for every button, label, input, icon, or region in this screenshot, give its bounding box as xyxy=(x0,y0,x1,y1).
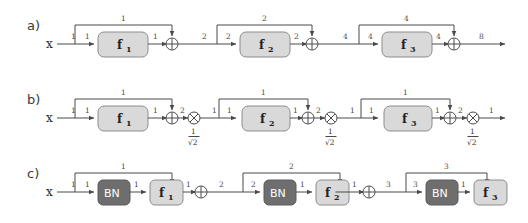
row-a-block-f1 xyxy=(98,32,148,57)
row-a-block-f3-sub: 3 xyxy=(410,44,416,54)
row-a-block-f3-name: f xyxy=(401,38,407,52)
row-a-block-f1-name: f xyxy=(117,38,123,52)
row-b-label-block-out-2: 1 xyxy=(293,106,298,115)
row-b-label: b) xyxy=(27,92,40,107)
row-b-block-f3-sub: 3 xyxy=(411,118,417,128)
row-c-label-skip-1: 1 xyxy=(121,162,126,171)
row-b-label-branch-1: 1 xyxy=(85,106,90,115)
row-b-block-f2-sub: 2 xyxy=(269,118,275,128)
row-c-label-branch-1: 1 xyxy=(85,180,90,189)
residual-network-diagram: a) x 1 1 1 f 1 1 2 2 2 f 2 2 4 4 4 xyxy=(0,0,528,223)
row-b-block-f1 xyxy=(98,106,148,131)
row-c-label-sum-out-2: 3 xyxy=(386,180,391,189)
row-b-scale-2-denominator: √2 xyxy=(325,138,335,147)
row-a-label-branch-1: 1 xyxy=(85,32,90,41)
row-c-label-branch-3: 3 xyxy=(413,180,418,189)
row-c-block-f1 xyxy=(150,180,183,205)
row-b-scale-3-denominator: √2 xyxy=(467,138,477,147)
row-c-label-bn-out-2: 1 xyxy=(300,180,305,189)
row-c-label-block-out-2: 1 xyxy=(352,180,357,189)
row-b-scale-2-numerator: 1 xyxy=(328,127,333,136)
row-a-label-skip-3: 4 xyxy=(404,14,409,23)
row-a-label-sum-out-3: 8 xyxy=(479,32,484,41)
row-c-label-block-out-1: 1 xyxy=(186,180,191,189)
row-a-label-branch-2: 2 xyxy=(226,32,231,41)
row-b-label-skip-1: 1 xyxy=(121,88,126,97)
row-b-label-sum-out-3: 2 xyxy=(458,106,463,115)
row-c-label-sum-out-1: 2 xyxy=(219,180,224,189)
row-b-label-block-out-3: 1 xyxy=(435,106,440,115)
row-b-scale-1-numerator: 1 xyxy=(191,127,196,136)
row-a-label-branch-3: 4 xyxy=(368,32,373,41)
row-b-scale-1-denominator: √2 xyxy=(188,138,198,147)
row-b-label-sum-out-1: 2 xyxy=(180,106,185,115)
row-c-label: c) xyxy=(27,166,39,181)
row-b-label-skip-3: 1 xyxy=(403,88,408,97)
row-a-label-block-out-3: 4 xyxy=(436,32,441,41)
row-b-block-f1-sub: 1 xyxy=(126,118,132,128)
row-a-label: a) xyxy=(27,18,40,33)
row-c-block-bn2-label: BN xyxy=(270,187,286,200)
row-c-block-f3-name: f xyxy=(483,186,489,200)
row-b-label-sum-out-2: 2 xyxy=(316,106,321,115)
row-a-label-skip-1: 1 xyxy=(121,14,126,23)
row-c-block-f1-sub: 1 xyxy=(168,192,174,202)
row-b-block-f1-name: f xyxy=(117,112,123,126)
row-c-input-label: x xyxy=(46,185,53,199)
row-a-block-f3 xyxy=(382,32,432,57)
row-c-label-bn-out-3: 1 xyxy=(461,180,466,189)
row-b-label-scaled-out-2: 1 xyxy=(350,106,355,115)
row-a-block-f2 xyxy=(240,32,290,57)
row-c-block-f1-name: f xyxy=(159,186,165,200)
row-c-block-bn1-label: BN xyxy=(104,187,120,200)
row-c-block-f3 xyxy=(474,180,507,205)
row-b-label-skip-2: 1 xyxy=(261,88,266,97)
row-a-label-sum-out-2: 4 xyxy=(343,32,348,41)
row-c-block-f2-sub: 2 xyxy=(334,192,340,202)
row-b-label-scaled-out-1: 1 xyxy=(212,106,217,115)
row-b-label-branch-3: 1 xyxy=(369,106,374,115)
row-c-block-bn3-label: BN xyxy=(432,187,448,200)
row-a-block-f2-name: f xyxy=(259,38,265,52)
row-c-label-branch-2: 2 xyxy=(251,180,256,189)
row-b-scale-3-numerator: 1 xyxy=(470,127,475,136)
row-c-block-f2-name: f xyxy=(325,186,331,200)
row-a-input-label: x xyxy=(46,37,53,51)
row-b-block-f3-name: f xyxy=(402,112,408,126)
row-a-block-f1-sub: 1 xyxy=(126,44,132,54)
row-b-block-f3 xyxy=(384,106,432,131)
row-b-block-f2 xyxy=(242,106,290,131)
row-a-block-f2-sub: 2 xyxy=(268,44,274,54)
row-a-label-skip-2: 2 xyxy=(262,14,267,23)
row-c-label-skip-3: 3 xyxy=(444,162,449,171)
row-a-label-sum-out-1: 2 xyxy=(202,32,207,41)
row-a-label-block-out-2: 2 xyxy=(294,32,299,41)
row-b-label-block-out-1: 1 xyxy=(153,106,158,115)
row-c-label-bn-out-1: 1 xyxy=(134,180,139,189)
row-b-block-f2-name: f xyxy=(260,112,266,126)
row-b-input-label: x xyxy=(46,111,53,125)
row-a-label-block-out-1: 1 xyxy=(153,32,158,41)
row-b-label-branch-2: 1 xyxy=(227,106,232,115)
row-b-label-scaled-out-3: 1 xyxy=(489,106,494,115)
row-c-label-skip-2: 2 xyxy=(289,162,294,171)
row-c-block-f3-sub: 3 xyxy=(492,192,498,202)
